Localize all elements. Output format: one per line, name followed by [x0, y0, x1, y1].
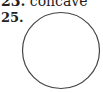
previous-item-answer: concave: [30, 0, 88, 9]
circle-figure: [21, 11, 101, 90]
previous-answer-line: 23. concave: [1, 0, 87, 8]
previous-item-number: 23.: [1, 0, 25, 9]
